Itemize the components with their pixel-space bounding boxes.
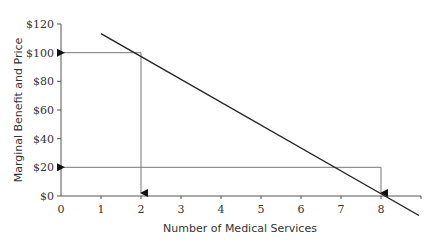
- x-tick-label: 6: [298, 203, 305, 216]
- y-tick-label: $120: [26, 18, 54, 31]
- y-tick-label: $0: [40, 190, 54, 203]
- y-tick-label: $20: [33, 161, 54, 174]
- x-tick-label: 1: [98, 203, 105, 216]
- y-tick-label: $80: [33, 75, 54, 88]
- x-tick-label: 0: [58, 203, 65, 216]
- x-tick-label: 5: [258, 203, 265, 216]
- y-axis: $0 $20 $40 $60 $80 $100 $120: [26, 18, 61, 203]
- y-tick-label: $40: [33, 133, 54, 146]
- x-tick-label: 2: [138, 203, 145, 216]
- x-tick-label: 3: [178, 203, 185, 216]
- x-tick-label: 8: [378, 203, 385, 216]
- marginal-benefit-line: [101, 34, 419, 216]
- guide-q2: [64, 53, 141, 193]
- x-axis: 0 1 2 3 4 5 6 7 8: [58, 196, 422, 216]
- y-tick-label: $60: [33, 104, 54, 117]
- chart: $0 $20 $40 $60 $80 $100 $120 0 1 2 3 4 5…: [0, 0, 433, 243]
- x-tick-label: 7: [338, 203, 345, 216]
- x-axis-title: Number of Medical Services: [163, 222, 317, 235]
- guide-q8: [64, 167, 381, 193]
- y-tick-label: $100: [26, 47, 54, 60]
- y-axis-title: Marginal Benefit and Price: [12, 37, 25, 182]
- x-tick-label: 4: [218, 203, 225, 216]
